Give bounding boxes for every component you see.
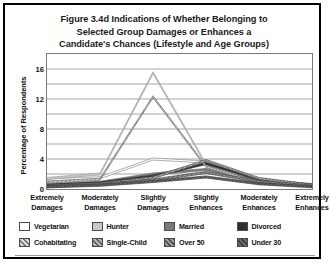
legend-label: Divorced xyxy=(252,222,282,231)
x-axis-tick-label: SlightlyEnhances xyxy=(189,193,222,212)
y-axis-tick-label: 8 xyxy=(40,125,44,134)
x-axis-tick-label: ExtremelyEnhances xyxy=(295,193,329,212)
legend-swatch-icon xyxy=(237,222,248,231)
title-line-3: Candidate's Chances (Lifestyle and Age G… xyxy=(23,38,305,51)
legend-item[interactable]: Cohabitating xyxy=(19,235,92,250)
page-title: Figure 3.4d Indications of Whether Belon… xyxy=(23,13,305,51)
gridlines xyxy=(47,69,312,174)
y-axis-tick-label: 16 xyxy=(36,65,44,74)
legend-label: Single-Child xyxy=(107,238,147,247)
legend-label: Over 50 xyxy=(179,238,204,247)
legend-row-bottom: CohabitatingSingle-ChildOver 50Under 30 xyxy=(19,235,309,250)
plot-area: 0481216 ExtremelyDamagesModeratelyDamage… xyxy=(46,53,313,190)
series-line xyxy=(47,96,312,187)
legend-swatch-icon xyxy=(92,238,103,247)
legend-item[interactable]: Divorced xyxy=(237,219,310,234)
legend-swatch-icon xyxy=(164,238,175,247)
legend-item[interactable]: Hunter xyxy=(92,219,165,234)
legend-row-top: VegetarianHunterMarriedDivorced xyxy=(19,219,309,234)
legend-item[interactable]: Over 50 xyxy=(164,235,237,250)
legend: VegetarianHunterMarriedDivorced Cohabita… xyxy=(19,219,309,253)
legend-swatch-icon xyxy=(92,222,103,231)
legend-label: Cohabitating xyxy=(34,238,76,247)
title-line-1: Figure 3.4d Indications of Whether Belon… xyxy=(23,13,305,26)
legend-label: Hunter xyxy=(107,222,129,231)
legend-label: Married xyxy=(179,222,204,231)
y-axis-tick-label: 4 xyxy=(40,155,44,164)
legend-item[interactable]: Married xyxy=(164,219,237,234)
y-axis-title: Percentage of Respondents xyxy=(19,61,28,191)
x-axis-tick-label: ExtremelyDamages xyxy=(30,193,64,212)
x-axis-tick-label: SlightlyDamages xyxy=(137,193,168,212)
series-lines xyxy=(47,72,312,188)
legend-swatch-icon xyxy=(237,238,248,247)
y-axis-tick-label: 12 xyxy=(36,95,44,104)
legend-swatch-icon xyxy=(164,222,175,231)
legend-item[interactable]: Single-Child xyxy=(92,235,165,250)
legend-swatch-icon xyxy=(19,222,30,231)
legend-label: Vegetarian xyxy=(34,222,69,231)
chart-canvas xyxy=(47,54,312,189)
legend-item[interactable]: Vegetarian xyxy=(19,219,92,234)
legend-label: Under 30 xyxy=(252,238,282,247)
x-axis-tick-label: ModeratelyDamages xyxy=(81,193,118,212)
legend-divider xyxy=(15,255,315,256)
figure-frame: Figure 3.4d Indications of Whether Belon… xyxy=(3,3,321,259)
title-line-2: Selected Group Damages or Enhances a xyxy=(23,26,305,39)
x-axis-tick-label: ModeratelyEnhances xyxy=(240,193,277,212)
legend-swatch-icon xyxy=(19,238,30,247)
legend-item[interactable]: Under 30 xyxy=(237,235,310,250)
